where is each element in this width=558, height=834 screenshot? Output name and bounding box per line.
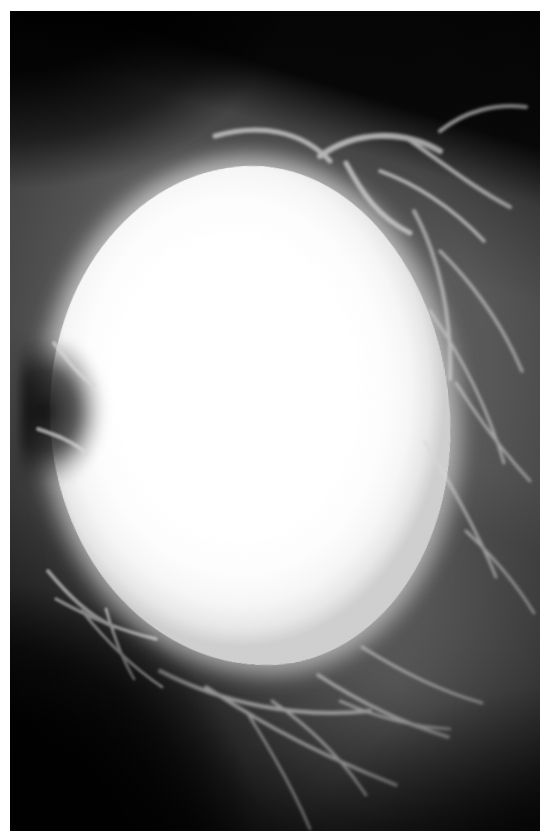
image-orientation-label: Right breast <box>0 0 1 1</box>
image-modality-label: Mammogram <box>0 0 1 1</box>
mass-left-border-notch <box>20 341 130 481</box>
image-view-label: Mediolateral oblique <box>0 0 1 1</box>
radiograph-image[interactable] <box>10 11 540 831</box>
screenshot-viewport: Mammogram Mediolateral oblique Right bre… <box>0 0 558 834</box>
